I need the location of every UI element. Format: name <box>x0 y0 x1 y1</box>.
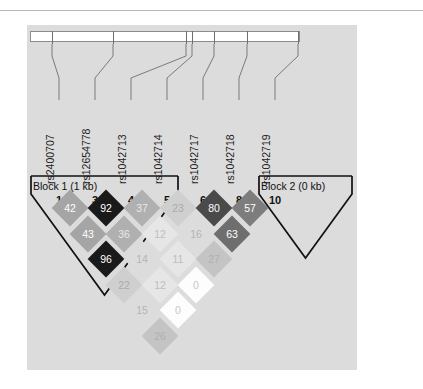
ld-matrix: 4292372380574336121663961411272212015026 <box>0 0 423 389</box>
ld-plot-figure: rs2400707rs12654778rs1042713rs1042714rs1… <box>0 0 423 389</box>
